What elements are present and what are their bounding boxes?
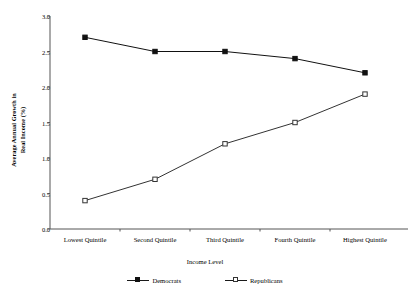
data-point-marker bbox=[83, 35, 87, 39]
data-point-marker bbox=[293, 120, 297, 124]
legend-label-republicans: Republicans bbox=[250, 277, 283, 284]
x-tick-label: Highest Quintile bbox=[343, 236, 387, 244]
data-point-marker bbox=[223, 49, 227, 53]
legend-item-democrats: Democrats bbox=[127, 276, 181, 284]
x-tick-label: Second Quintile bbox=[134, 236, 177, 244]
x-tick-label: Third Quintile bbox=[206, 236, 244, 244]
data-point-marker bbox=[223, 142, 227, 146]
data-point-marker bbox=[83, 198, 87, 202]
legend-label-democrats: Democrats bbox=[152, 277, 181, 284]
series-republicans bbox=[83, 92, 367, 203]
legend-item-republicans: Republicans bbox=[225, 276, 283, 284]
data-series-group bbox=[83, 35, 367, 203]
data-point-marker bbox=[363, 71, 367, 75]
axes bbox=[48, 16, 409, 232]
x-axis-title: Income Level bbox=[0, 258, 410, 265]
chart-legend: Democrats Republicans bbox=[0, 276, 410, 284]
data-point-marker bbox=[153, 49, 157, 53]
data-point-marker bbox=[363, 92, 367, 96]
series-democrats bbox=[83, 35, 367, 75]
data-point-marker bbox=[293, 56, 297, 60]
open-square-marker-icon bbox=[225, 276, 247, 284]
x-tick-label: Lowest Quintile bbox=[64, 236, 107, 244]
x-tick-label: Fourth Quintile bbox=[275, 236, 316, 244]
data-point-marker bbox=[153, 177, 157, 181]
chart-container: Average Annual Growth in Real Income (%)… bbox=[0, 0, 410, 295]
plot-area bbox=[0, 0, 410, 295]
filled-square-marker-icon bbox=[127, 276, 149, 284]
